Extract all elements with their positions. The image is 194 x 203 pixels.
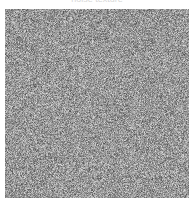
image-caption: noise texture (0, 0, 194, 4)
image-frame: noise texture (0, 0, 194, 203)
noise-texture-image (5, 9, 189, 198)
noise-texture-region (5, 9, 189, 198)
